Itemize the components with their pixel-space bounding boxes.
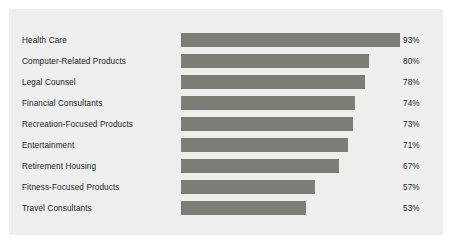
category-label: Entertainment [22, 135, 74, 156]
bar [181, 180, 315, 194]
bar [181, 54, 369, 68]
value-label: 57% [403, 177, 420, 198]
bar [181, 117, 353, 131]
value-label: 93% [403, 30, 420, 51]
value-label: 73% [403, 114, 420, 135]
category-label: Legal Counsel [22, 72, 76, 93]
chart-panel: Health Care93%Computer-Related Products8… [9, 9, 443, 235]
chart-row: Retirement Housing67% [9, 156, 443, 177]
chart-row: Fitness-Focused Products57% [9, 177, 443, 198]
chart-row: Travel Consultants53% [9, 198, 443, 219]
chart-row: Financial Consultants74% [9, 93, 443, 114]
value-label: 71% [403, 135, 420, 156]
chart-row: Recreation-Focused Products73% [9, 114, 443, 135]
chart-row: Entertainment71% [9, 135, 443, 156]
chart-plot-area: Health Care93%Computer-Related Products8… [9, 9, 443, 235]
value-label: 78% [403, 72, 420, 93]
chart-row: Health Care93% [9, 30, 443, 51]
bar [181, 75, 365, 89]
category-label: Computer-Related Products [22, 51, 126, 72]
bar [181, 201, 306, 215]
bar [181, 138, 348, 152]
value-label: 53% [403, 198, 420, 219]
bar [181, 33, 400, 47]
category-label: Travel Consultants [22, 198, 92, 219]
category-label: Financial Consultants [22, 93, 102, 114]
category-label: Fitness-Focused Products [22, 177, 120, 198]
value-label: 67% [403, 156, 420, 177]
category-label: Health Care [22, 30, 67, 51]
bar [181, 159, 339, 173]
bar [181, 96, 355, 110]
chart-row: Computer-Related Products80% [9, 51, 443, 72]
category-label: Retirement Housing [22, 156, 96, 177]
value-label: 74% [403, 93, 420, 114]
chart-row: Legal Counsel78% [9, 72, 443, 93]
value-label: 80% [403, 51, 420, 72]
category-label: Recreation-Focused Products [22, 114, 133, 135]
bar-chart-figure: Health Care93%Computer-Related Products8… [0, 0, 450, 244]
